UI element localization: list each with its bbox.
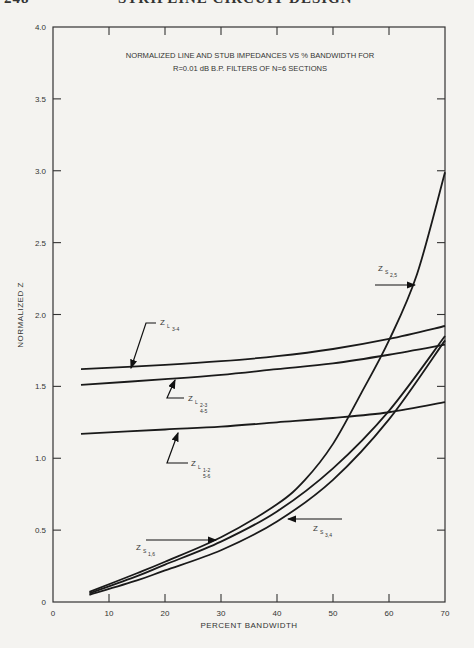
svg-text:L: L — [195, 399, 198, 405]
svg-text:S: S — [143, 548, 147, 554]
curve-z-s3-4 — [89, 340, 445, 594]
svg-text:Z: Z — [136, 543, 141, 552]
x-tick-label: 40 — [273, 609, 282, 618]
curves — [81, 172, 445, 595]
x-tick-label: 10 — [105, 609, 114, 618]
x-tick-label: 30 — [217, 609, 226, 618]
chart-title: NORMALIZED LINE AND STUB IMPEDANCES VS %… — [126, 51, 375, 60]
curve-z-l3-4 — [81, 326, 445, 369]
curve-z-s2-5 — [89, 172, 445, 592]
y-axis-title: NORMALIZED Z — [16, 282, 25, 348]
svg-text:5-6: 5-6 — [203, 473, 210, 479]
svg-text:S: S — [320, 529, 324, 535]
x-axis-title: PERCENT BANDWIDTH — [200, 621, 297, 630]
x-tick-label: 70 — [441, 609, 450, 618]
axis-ticks: 01020304050607000.51.01.52.02.53.03.54.0 — [35, 23, 450, 618]
label-zl-3-4: ZL3-4 — [160, 318, 179, 332]
y-tick-label: 2.5 — [35, 239, 47, 248]
svg-text:Z: Z — [188, 394, 193, 403]
y-tick-label: 1.5 — [35, 382, 47, 391]
y-tick-label: 1.0 — [35, 454, 47, 463]
y-tick-label: 3.5 — [35, 95, 47, 104]
svg-text:L: L — [198, 464, 201, 470]
y-tick-label: 0 — [42, 598, 47, 607]
svg-text:3,4: 3,4 — [325, 532, 332, 538]
x-tick-label: 20 — [161, 609, 170, 618]
svg-text:1,6: 1,6 — [148, 551, 155, 557]
svg-text:2,5: 2,5 — [390, 272, 397, 278]
plot-frame — [53, 27, 445, 602]
y-tick-label: 2.0 — [35, 311, 47, 320]
label-zs-2-5: ZS2,5 — [378, 264, 397, 278]
x-tick-label: 0 — [51, 609, 56, 618]
svg-text:3-4: 3-4 — [172, 326, 179, 332]
x-tick-label: 60 — [385, 609, 394, 618]
svg-text:L: L — [167, 323, 170, 329]
impedance-chart: 01020304050607000.51.01.52.02.53.03.54.0… — [0, 0, 474, 648]
svg-text:Z: Z — [160, 318, 165, 327]
y-tick-label: 4.0 — [35, 23, 47, 32]
label-zl-2-3-4-5: ZL2-34-5 — [188, 394, 207, 414]
label-zl-1-2-5-6: ZL1-25-6 — [191, 459, 210, 479]
curve-z-s1-6 — [89, 336, 445, 593]
chart-subtitle: R=0.01 dB B.P. FILTERS OF N=6 SECTIONS — [173, 64, 327, 73]
label-zs-1-6: ZS1,6 — [136, 543, 155, 557]
plot-border — [53, 27, 445, 602]
svg-text:Z: Z — [191, 459, 196, 468]
label-zs-3-4: ZS3,4 — [313, 524, 332, 538]
y-tick-label: 3.0 — [35, 167, 47, 176]
y-tick-label: 0.5 — [35, 526, 47, 535]
curve-z-l2-3-4-5 — [81, 345, 445, 385]
svg-text:4-5: 4-5 — [200, 408, 207, 414]
svg-text:Z: Z — [313, 524, 318, 533]
svg-text:Z: Z — [378, 264, 383, 273]
x-tick-label: 50 — [329, 609, 338, 618]
svg-text:S: S — [385, 269, 389, 275]
